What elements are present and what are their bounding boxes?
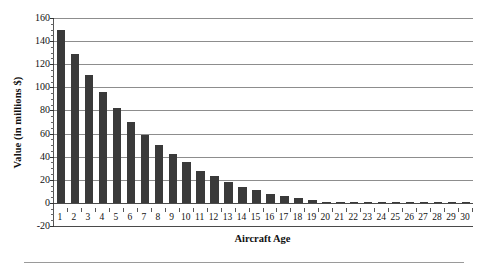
plot-area	[53, 18, 472, 226]
bar	[99, 92, 107, 203]
x-axis-tick-mark	[263, 208, 264, 212]
x-axis-tick-label: 14	[237, 212, 247, 223]
aircraft-value-bar-chart-figure: Value (in millions $) 160140120100806040…	[0, 0, 486, 275]
bar	[462, 202, 470, 203]
bar	[434, 202, 442, 203]
y-axis-tick-label: 40	[24, 152, 50, 162]
x-axis-tick-label: 19	[307, 212, 317, 223]
bar	[85, 75, 93, 203]
y-axis-tick-label: 20	[24, 175, 50, 185]
x-axis-tick-mark	[165, 208, 166, 212]
bar	[196, 171, 204, 203]
x-axis-tick-mark	[346, 208, 347, 212]
gridline	[54, 226, 473, 227]
bar	[182, 162, 190, 202]
x-axis-tick-mark	[374, 208, 375, 212]
bar	[378, 202, 386, 203]
x-axis-tick-mark	[318, 208, 319, 212]
x-axis-tick-label: 21	[335, 212, 345, 223]
bar	[71, 54, 79, 203]
x-axis-tick-mark	[109, 208, 110, 212]
x-axis-tick-mark	[416, 208, 417, 212]
figure-bottom-rule	[24, 262, 464, 263]
bar	[406, 202, 414, 203]
x-axis-tick-mark	[193, 208, 194, 212]
y-axis-tick-label: 60	[24, 129, 50, 139]
bar	[392, 202, 400, 203]
x-axis-tick-label: 23	[363, 212, 373, 223]
bar	[350, 202, 358, 203]
x-axis-tick-label: 7	[141, 212, 146, 223]
x-axis-tick-mark	[151, 208, 152, 212]
x-axis-tick-label: 5	[113, 212, 118, 223]
x-axis-tick-label: 18	[293, 212, 303, 223]
x-axis-tick-label: 26	[404, 212, 414, 223]
x-axis-tick-mark	[221, 208, 222, 212]
x-axis-tick-label: 20	[321, 212, 331, 223]
x-axis-tick-label: 11	[195, 212, 204, 223]
x-axis-tick-label: 9	[169, 212, 174, 223]
x-axis-tick-mark	[207, 208, 208, 212]
x-axis-tick-label: 12	[209, 212, 219, 223]
x-axis-tick-label: 13	[223, 212, 233, 223]
y-axis-tick-label: 140	[24, 36, 50, 46]
x-axis-tick-mark	[472, 208, 473, 212]
bar-series	[54, 18, 473, 226]
bar	[169, 154, 177, 203]
bar	[224, 182, 232, 203]
x-axis-tick-label: 10	[181, 212, 191, 223]
x-axis-tick-label: 16	[265, 212, 275, 223]
x-axis-tick-mark	[95, 208, 96, 212]
bar	[155, 145, 163, 203]
x-axis-tick-mark	[430, 208, 431, 212]
x-axis-tick-mark	[179, 208, 180, 212]
x-axis-tick-mark	[123, 208, 124, 212]
x-axis-tick-label: 15	[251, 212, 261, 223]
bar	[364, 202, 372, 203]
y-axis-tick-labels: 160140120100806040200-20	[24, 18, 50, 226]
x-axis-tick-label: 1	[58, 212, 63, 223]
bar	[113, 108, 121, 203]
x-axis-tick-label: 4	[100, 212, 105, 223]
bar	[127, 122, 135, 203]
x-axis-tick-mark	[276, 208, 277, 212]
x-axis-tick-label: 28	[432, 212, 442, 223]
bar	[336, 202, 344, 203]
bar	[294, 198, 302, 203]
x-axis-tick-mark	[137, 208, 138, 212]
x-axis-tick-mark	[249, 208, 250, 212]
x-axis-tick-mark	[53, 208, 54, 212]
x-axis-tick-label: 6	[127, 212, 132, 223]
x-axis-title: Aircraft Age	[53, 233, 472, 244]
x-axis-tick-mark	[332, 208, 333, 212]
bar	[280, 196, 288, 203]
y-axis-tick-label: -20	[24, 221, 50, 231]
x-axis-tick-label: 27	[418, 212, 428, 223]
bar	[266, 194, 274, 203]
bar	[420, 202, 428, 203]
bar	[238, 187, 246, 203]
y-axis-major-tick	[50, 226, 54, 227]
bar	[57, 30, 65, 203]
x-axis-tick-label: 24	[376, 212, 386, 223]
bar	[448, 202, 456, 203]
x-axis-tick-mark	[444, 208, 445, 212]
x-axis-tick-mark	[360, 208, 361, 212]
bar	[322, 202, 330, 203]
y-axis-tick-label: 80	[24, 105, 50, 115]
x-axis-tick-label: 29	[446, 212, 456, 223]
x-axis-tick-mark	[402, 208, 403, 212]
x-axis-tick-label: 25	[390, 212, 400, 223]
x-axis-tick-mark	[458, 208, 459, 212]
x-axis-tick-mark	[67, 208, 68, 212]
x-axis-tick-mark	[304, 208, 305, 212]
bar	[308, 200, 316, 203]
x-axis-tick-label: 30	[460, 212, 470, 223]
y-axis-tick-label: 160	[24, 13, 50, 23]
x-axis-tick-mark	[235, 208, 236, 212]
x-axis-tick-mark	[81, 208, 82, 212]
y-axis-tick-label: 0	[24, 198, 50, 208]
x-axis-tick-label: 17	[279, 212, 289, 223]
x-axis-tick-mark	[290, 208, 291, 212]
y-axis-tick-label: 100	[24, 82, 50, 92]
